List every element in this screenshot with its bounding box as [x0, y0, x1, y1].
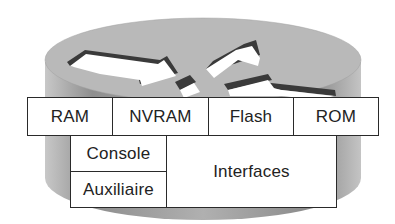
memory-ram: RAM: [27, 97, 113, 136]
memory-flash-label: Flash: [230, 107, 273, 127]
port-interfaces: Interfaces: [166, 135, 337, 208]
memory-rom-label: ROM: [316, 107, 356, 127]
memory-rom: ROM: [293, 97, 379, 136]
port-console-label: Console: [87, 144, 151, 164]
memory-flash: Flash: [208, 97, 294, 136]
port-interfaces-label: Interfaces: [213, 162, 290, 182]
port-console: Console: [70, 135, 167, 172]
memory-ram-label: RAM: [51, 107, 89, 127]
port-auxiliary-label: Auxiliaire: [83, 180, 154, 200]
memory-nvram-label: NVRAM: [129, 107, 191, 127]
memory-nvram: NVRAM: [112, 97, 209, 136]
port-auxiliary: Auxiliaire: [70, 171, 167, 208]
